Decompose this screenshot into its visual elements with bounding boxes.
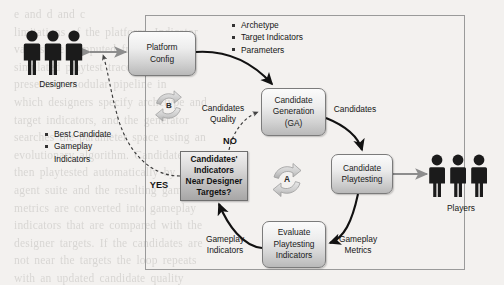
node-evaluate-playtesting-indicators-label: Evaluate Playtesting Indicators	[274, 227, 315, 261]
node-platform-config[interactable]: Platform Config	[128, 31, 196, 76]
bullet-parameters: Parameters	[231, 44, 303, 56]
node-candidate-generation-label: Candidate Generation (GA)	[273, 95, 314, 129]
loop-badge-a-letter: A	[281, 174, 293, 185]
loop-badge-b-letter: B	[163, 100, 175, 111]
bullet-list-designer-outputs: Best Candidate Gameplay Indicators	[44, 128, 111, 165]
edge-label-yes: YES	[146, 180, 172, 191]
bullet-target-indicators: Target Indicators	[231, 31, 303, 43]
bullet-gameplay-indicators: Gameplay Indicators	[44, 140, 111, 165]
edge-label-no: NO	[219, 136, 241, 147]
designers-caption: Designers	[24, 79, 92, 90]
bullet-best-candidate: Best Candidate	[44, 128, 111, 140]
figure-canvas: e and d and c limitations of the platfor…	[0, 0, 504, 285]
edge-config-to-generation	[196, 52, 272, 84]
edge-generation-to-playtesting	[326, 118, 362, 150]
players-caption: Players	[428, 203, 494, 214]
bullet-archetype: Archetype	[231, 19, 303, 31]
node-decision-label: Candidates' Indicators Near Designer Tar…	[186, 154, 243, 199]
node-candidate-playtesting-label: Candidate Playtesting	[342, 163, 383, 186]
edge-label-candidates-quality: Candidates Quality	[195, 103, 251, 125]
bullet-list-config-inputs: Archetype Target Indicators Parameters	[231, 19, 303, 56]
edge-label-candidates: Candidates	[327, 104, 383, 115]
node-candidate-playtesting[interactable]: Candidate Playtesting	[331, 154, 393, 194]
node-platform-config-label: Platform Config	[146, 42, 177, 65]
node-decision-candidates-near-targets[interactable]: Candidates' Indicators Near Designer Tar…	[180, 151, 248, 201]
edge-label-gameplay-indicators: Gameplay Indicators	[196, 234, 254, 256]
node-candidate-generation[interactable]: Candidate Generation (GA)	[261, 88, 326, 136]
node-evaluate-playtesting-indicators[interactable]: Evaluate Playtesting Indicators	[262, 221, 326, 268]
edge-label-gameplay-metrics: Gameplay Metrics	[332, 234, 384, 256]
designers-figures	[24, 30, 82, 75]
players-figures	[429, 155, 487, 197]
